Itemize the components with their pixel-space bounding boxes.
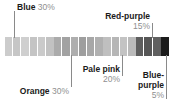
bar-segment xyxy=(79,37,87,56)
bar-band-pale-pink[interactable] xyxy=(103,37,136,56)
callout-orange: Orange 30% xyxy=(10,86,69,96)
bar-segment xyxy=(136,37,144,56)
bar-segment xyxy=(46,37,54,56)
bar-band-blue[interactable] xyxy=(5,37,54,56)
bar-segment xyxy=(161,37,169,56)
callout-blue-purple-percent: 5% xyxy=(126,90,164,100)
bar-segment xyxy=(128,37,136,56)
callout-red-purple-label: Red-purple xyxy=(92,11,150,21)
bar-segment xyxy=(103,37,111,56)
bar-segment xyxy=(87,37,95,56)
bar-segment xyxy=(54,37,62,56)
bar-band-orange[interactable] xyxy=(54,37,103,56)
bar-segment xyxy=(21,37,29,56)
callout-blue-purple: Blue- purple 5% xyxy=(126,70,164,100)
bar-segment xyxy=(71,37,79,56)
callout-blue-purple-label-line1: Blue- xyxy=(126,70,164,80)
callout-blue-percent: 30% xyxy=(38,2,55,12)
bar-segment xyxy=(30,37,38,56)
bar-segment xyxy=(112,37,120,56)
leader-line-red-purple xyxy=(152,23,153,38)
stacked-bar-chart: Blue 30% Red-purple 15% Orange 30% Pale … xyxy=(0,0,174,104)
bar-segment xyxy=(153,37,161,56)
callout-pale-pink-percent: 20% xyxy=(72,74,120,84)
callout-blue-label: Blue xyxy=(17,2,35,12)
callout-blue: Blue 30% xyxy=(17,2,55,12)
callout-pale-pink: Pale pink 20% xyxy=(72,64,120,84)
bar-segment xyxy=(95,37,103,56)
bar-segment xyxy=(13,37,21,56)
leader-line-pale-pink xyxy=(122,55,123,76)
callout-red-purple-percent: 15% xyxy=(92,21,150,31)
bar-segment xyxy=(5,37,13,56)
callout-blue-purple-label-line2: purple xyxy=(126,80,164,90)
bar-segment xyxy=(38,37,46,56)
callout-orange-label: Orange xyxy=(20,86,50,96)
leader-line-blue xyxy=(14,11,15,38)
callout-red-purple: Red-purple 15% xyxy=(92,11,150,31)
callout-orange-percent: 30% xyxy=(52,86,69,96)
callout-pale-pink-label: Pale pink xyxy=(72,64,120,74)
bar-segment xyxy=(144,37,152,56)
bar-band-red-purple[interactable] xyxy=(136,37,161,56)
bar-segment xyxy=(62,37,70,56)
bar-segment xyxy=(120,37,128,56)
bar-band-blue-purple[interactable] xyxy=(161,37,169,56)
stacked-bar xyxy=(5,37,169,56)
leader-line-blue-purple xyxy=(166,55,167,99)
